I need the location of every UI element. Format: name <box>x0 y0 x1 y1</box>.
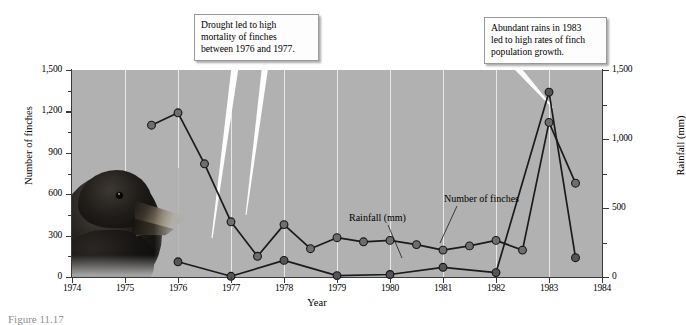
y-right-label-1000: 1,000 <box>612 133 652 143</box>
y-left-tick-1500 <box>66 70 72 71</box>
x-tick-label-1976: 1976 <box>158 283 198 293</box>
x-tick-label-1977: 1977 <box>211 283 251 293</box>
y-left-label-600: 600 <box>28 188 62 198</box>
figure-caption: Figure 11.17 <box>8 313 64 325</box>
x-tick-label-1984: 1984 <box>582 283 622 293</box>
y-axis-right-title: Rainfall (mm) <box>675 86 686 206</box>
y-right-minor-tick-250 <box>603 243 607 244</box>
annotation-drought-line-1: Drought led to high <box>201 19 313 31</box>
y-left-label-1500: 1,500 <box>28 64 62 74</box>
x-tick-label-1982: 1982 <box>476 283 516 293</box>
series-label-rainfall: Rainfall (mm) <box>349 212 406 223</box>
x-tick-label-1975: 1975 <box>105 283 145 293</box>
annotation-rains: Abundant rains in 1983 led to high rates… <box>484 17 607 64</box>
gridline-1981 <box>443 70 444 277</box>
y-left-tick-300 <box>66 236 72 237</box>
x-tick-label-1974: 1974 <box>52 283 92 293</box>
x-axis-title: Year <box>277 297 357 308</box>
x-tick-label-1978: 1978 <box>264 283 304 293</box>
gridline-1978 <box>284 70 285 277</box>
y-left-label-300: 300 <box>28 230 62 240</box>
y-right-label-0: 0 <box>612 271 652 281</box>
x-tick-label-1981: 1981 <box>423 283 463 293</box>
annotation-drought: Drought led to high mortality of finches… <box>194 14 319 61</box>
y-left-minor-tick-450 <box>68 215 72 216</box>
x-tick-label-1983: 1983 <box>529 283 569 293</box>
gridline-1979 <box>337 70 338 277</box>
annotation-rains-line-1: Abundant rains in 1983 <box>491 22 601 34</box>
y-right-tick-0 <box>603 277 609 278</box>
y-right-minor-tick-1250 <box>603 105 607 106</box>
y-left-tick-1200 <box>66 111 72 112</box>
annotation-drought-line-3: between 1976 and 1977. <box>201 43 313 55</box>
gridline-1982 <box>496 70 497 277</box>
y-right-label-500: 500 <box>612 202 652 212</box>
y-right-tick-1500 <box>603 70 609 71</box>
y-left-tick-0 <box>66 277 72 278</box>
gridline-1983 <box>549 70 550 277</box>
y-left-minor-tick-150 <box>68 256 72 257</box>
x-tick-label-1979: 1979 <box>317 283 357 293</box>
annotation-rains-line-3: population growth. <box>491 46 601 58</box>
y-left-label-1200: 1,200 <box>28 105 62 115</box>
annotation-rains-line-2: led to high rates of finch <box>491 34 601 46</box>
y-right-tick-1000 <box>603 139 609 140</box>
y-left-tick-900 <box>66 153 72 154</box>
y-left-minor-tick-1050 <box>68 132 72 133</box>
y-left-minor-tick-1350 <box>68 91 72 92</box>
y-right-label-1500: 1,500 <box>612 64 652 74</box>
gridline-1977 <box>231 70 232 277</box>
y-left-minor-tick-750 <box>68 174 72 175</box>
y-left-tick-600 <box>66 194 72 195</box>
darwin-finch-photo <box>72 168 184 277</box>
y-left-label-0: 0 <box>28 271 62 281</box>
series-label-finches: Number of finches <box>444 193 519 204</box>
gridline-1980 <box>390 70 391 277</box>
y-left-label-900: 900 <box>28 147 62 157</box>
y-right-tick-500 <box>603 208 609 209</box>
y-right-minor-tick-750 <box>603 174 607 175</box>
x-tick-label-1980: 1980 <box>370 283 410 293</box>
annotation-drought-line-2: mortality of finches <box>201 31 313 43</box>
